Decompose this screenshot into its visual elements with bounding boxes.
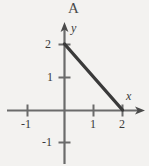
x-tick-label--1: -1 [21, 118, 31, 130]
y-tick-label--1: -1 [42, 136, 52, 148]
x-tick-label-1: 1 [90, 118, 96, 130]
x-tick-label-2: 2 [119, 118, 125, 130]
y-tick-label-1: 1 [47, 71, 53, 83]
y-tick-label-2: 2 [45, 38, 51, 50]
x-axis-label: x [126, 90, 131, 102]
panel-label: A [68, 1, 79, 16]
y-axis-label: y [71, 22, 76, 34]
plot-line-segment [65, 44, 123, 110]
coordinate-plane-figure: A y x -1 1 2 2 1 -1 [0, 0, 149, 166]
